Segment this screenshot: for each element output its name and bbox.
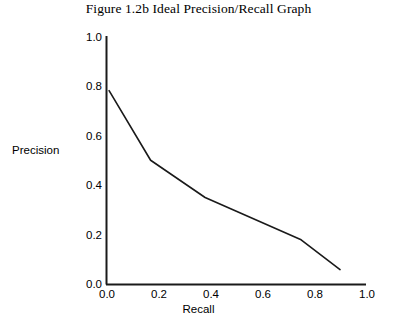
x-tick-label-1.0: 1.0: [350, 288, 384, 300]
y-tick-label-1.0: 1.0: [72, 31, 102, 43]
y-tick-label-0.8: 0.8: [72, 80, 102, 92]
y-tick-label-0.4: 0.4: [72, 179, 102, 191]
y-axis-label: Precision: [12, 144, 59, 156]
x-tick-label-0.6: 0.6: [246, 288, 280, 300]
x-tick-label-0.4: 0.4: [194, 288, 228, 300]
precision-recall-figure: Figure 1.2b Ideal Precision/Recall Graph…: [0, 0, 397, 328]
y-tick-label-0.2: 0.2: [72, 229, 102, 241]
y-tick-label-0.6: 0.6: [72, 130, 102, 142]
precision-recall-curve: [109, 91, 340, 270]
x-axis-label: Recall: [0, 303, 397, 315]
x-tick-label-0.0: 0.0: [90, 288, 124, 300]
x-tick-label-0.8: 0.8: [298, 288, 332, 300]
plot-area: [0, 0, 397, 328]
x-tick-label-0.2: 0.2: [142, 288, 176, 300]
